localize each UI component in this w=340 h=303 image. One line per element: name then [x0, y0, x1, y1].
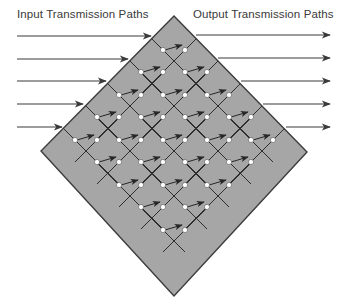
switch-node-in — [94, 159, 99, 164]
switch-node-in — [160, 182, 165, 187]
switch-node-out — [248, 159, 253, 164]
switch-node-out — [138, 92, 143, 97]
switch-node-out — [94, 137, 99, 142]
switch-node-out — [182, 182, 187, 187]
switch-node-out — [138, 182, 143, 187]
switch-node-out — [182, 227, 187, 232]
switch-node-out — [160, 204, 165, 209]
switch-node-in — [160, 92, 165, 97]
switch-node-out — [226, 92, 231, 97]
switch-node-in — [116, 182, 121, 187]
switch-node-out — [204, 114, 209, 119]
switch-node-out — [204, 204, 209, 209]
switch-node-in — [226, 159, 231, 164]
switch-node-out — [248, 114, 253, 119]
switch-node-in — [182, 159, 187, 164]
switch-node-in — [138, 69, 143, 74]
switch-node-in — [160, 227, 165, 232]
switch-node-out — [182, 137, 187, 142]
switch-node-out — [182, 92, 187, 97]
switch-node-out — [138, 137, 143, 142]
switch-node-out — [182, 47, 187, 52]
diamond-grid-canvas — [0, 0, 340, 303]
switch-node-out — [204, 159, 209, 164]
switch-node-out — [160, 114, 165, 119]
switch-node-out — [226, 137, 231, 142]
switch-node-in — [116, 137, 121, 142]
switch-node-in — [72, 137, 77, 142]
switch-node-out — [270, 137, 275, 142]
switching-network-diagram: Input Transmission Paths Output Transmis… — [0, 0, 340, 303]
switch-node-in — [160, 47, 165, 52]
switch-node-in — [138, 114, 143, 119]
switch-node-in — [204, 137, 209, 142]
switch-node-in — [248, 137, 253, 142]
switch-node-in — [116, 92, 121, 97]
switch-node-in — [138, 159, 143, 164]
switch-node-in — [204, 182, 209, 187]
switch-node-in — [182, 204, 187, 209]
switch-node-in — [160, 137, 165, 142]
switch-node-in — [182, 114, 187, 119]
switch-node-out — [226, 182, 231, 187]
switch-node-out — [116, 159, 121, 164]
switch-node-in — [182, 69, 187, 74]
switch-node-in — [204, 92, 209, 97]
output-paths-label: Output Transmission Paths — [193, 8, 334, 20]
switch-node-out — [204, 69, 209, 74]
switch-node-out — [160, 159, 165, 164]
switch-node-out — [116, 114, 121, 119]
input-paths-label: Input Transmission Paths — [17, 8, 149, 20]
switch-node-in — [138, 204, 143, 209]
switch-node-in — [94, 114, 99, 119]
switch-node-in — [226, 114, 231, 119]
switch-node-out — [160, 69, 165, 74]
